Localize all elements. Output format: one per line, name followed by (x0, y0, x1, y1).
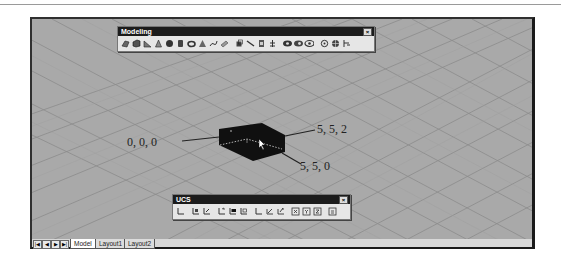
tab-layout1[interactable]: Layout1 (95, 239, 126, 249)
drawing-viewport[interactable]: Modeling × (30, 17, 535, 241)
modeling-toolbar-close-button[interactable]: × (363, 28, 372, 36)
z-ucs-icon[interactable] (312, 206, 322, 217)
ucs-toolbar-title: UCS (176, 196, 191, 203)
ucs-toolbar-buttons (173, 204, 350, 219)
origin-coordinate-label: 0, 0, 0 (127, 135, 157, 150)
y-ucs-icon[interactable] (301, 206, 311, 217)
last-tab-button[interactable]: ▶| (60, 240, 69, 249)
cone-icon[interactable] (153, 38, 163, 49)
origin-ucs-icon[interactable] (253, 206, 263, 217)
modeling-toolbar-titlebar[interactable]: Modeling × (118, 27, 374, 36)
sweep-icon[interactable] (256, 38, 266, 49)
extrude-icon[interactable] (234, 38, 244, 49)
modeling-toolbar[interactable]: Modeling × (117, 26, 375, 52)
3-point-ucs-icon[interactable] (275, 206, 285, 217)
previous-ucs-icon[interactable] (201, 206, 211, 217)
presspull-icon[interactable] (245, 38, 255, 49)
pyramid-icon[interactable] (197, 38, 207, 49)
object-ucs-icon[interactable] (227, 206, 237, 217)
3d-rotate-icon[interactable] (330, 38, 340, 49)
modeling-toolbar-title: Modeling (121, 28, 152, 35)
first-tab-button[interactable]: |◀ (33, 240, 42, 249)
z-axis-vector-ucs-icon[interactable] (264, 206, 274, 217)
box-icon[interactable] (131, 38, 141, 49)
cylinder-icon[interactable] (175, 38, 185, 49)
face-ucs-icon[interactable] (216, 206, 226, 217)
intersect-icon[interactable] (304, 38, 314, 49)
apply-ucs-icon[interactable] (327, 206, 337, 217)
ucs-toolbar-close-button[interactable]: × (339, 196, 348, 204)
revolve-icon[interactable] (267, 38, 277, 49)
polysolid-icon[interactable] (120, 38, 130, 49)
3d-align-icon[interactable] (341, 38, 351, 49)
planar-surface-icon[interactable] (219, 38, 229, 49)
ucs-toolbar[interactable]: UCS × (172, 194, 351, 220)
modeling-toolbar-buttons (118, 36, 374, 51)
3d-move-icon[interactable] (319, 38, 329, 49)
sphere-icon[interactable] (164, 38, 174, 49)
torus-icon[interactable] (186, 38, 196, 49)
previous-tab-button[interactable]: ◀ (42, 240, 51, 249)
ucs-icon[interactable] (175, 206, 185, 217)
view-ucs-icon[interactable] (238, 206, 248, 217)
bottom-corner-coordinate-label: 5, 5, 0 (300, 159, 330, 174)
world-ucs-icon[interactable] (190, 206, 200, 217)
top-corner-coordinate-label: 5, 5, 2 (317, 122, 347, 137)
layout-tab-bar: |◀ ◀ ▶ ▶| Model Layout1 Layout2 (30, 239, 535, 249)
page-rule (0, 4, 561, 5)
tab-model[interactable]: Model (70, 239, 96, 249)
next-tab-button[interactable]: ▶ (51, 240, 60, 249)
helix-icon[interactable] (208, 38, 218, 49)
union-icon[interactable] (282, 38, 292, 49)
ucs-toolbar-titlebar[interactable]: UCS × (173, 195, 350, 204)
tab-layout2[interactable]: Layout2 (124, 239, 155, 249)
x-ucs-icon[interactable] (290, 206, 300, 217)
subtract-icon[interactable] (293, 38, 303, 49)
wedge-icon[interactable] (142, 38, 152, 49)
